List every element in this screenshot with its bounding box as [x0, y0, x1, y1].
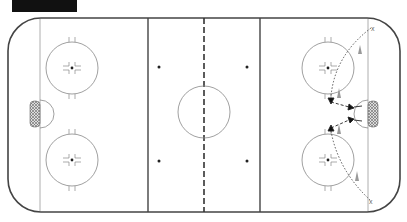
- marker-x-bottom: x: [369, 198, 373, 205]
- net-left: [30, 101, 40, 127]
- hockey-rink: x x: [0, 0, 407, 222]
- marker-x-top: x: [371, 25, 375, 32]
- net-right: [368, 101, 378, 127]
